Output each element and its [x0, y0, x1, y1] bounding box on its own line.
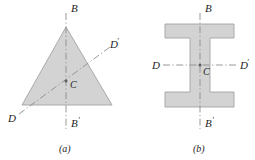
triangle-centroid-dot [65, 80, 68, 83]
triangle-axis-label-D: D [7, 112, 16, 124]
panel-b-group: B B ′ D D ′ C (b) [151, 2, 249, 155]
ibeam-axis-label-D: D [151, 59, 160, 71]
panel-a-caption: (a) [59, 143, 71, 155]
ibeam-centroid-label: C [203, 66, 210, 77]
triangle-axis-label-B: B [71, 2, 78, 14]
triangle-axis-label-B-prime-group: B ′ [71, 116, 80, 129]
triangle-axis-label-Dprime-mark: ′ [117, 37, 119, 46]
triangle-axis-label-Bprime-mark: ′ [78, 116, 80, 125]
figure-canvas: B B ′ D D ′ C (a) B [0, 0, 255, 160]
figure-container: B B ′ D D ′ C (a) B [0, 0, 255, 160]
triangle-axis-label-Bprime: B [71, 117, 78, 129]
triangle-axis-label-D-prime-group: D ′ [109, 37, 119, 50]
triangle-centroid-label: C [70, 79, 77, 90]
ibeam-axis-label-Bprime-mark: ′ [212, 116, 214, 125]
ibeam-axis-label-Bprime: B [205, 117, 212, 129]
ibeam-axis-label-Dprime-mark: ′ [247, 58, 249, 67]
triangle-shape [22, 27, 112, 105]
ibeam-centroid-dot [199, 64, 202, 67]
panel-a-group: B B ′ D D ′ C (a) [7, 2, 119, 155]
ibeam-axis-label-D-prime-group: D ′ [239, 58, 249, 71]
ibeam-axis-label-B-prime-group: B ′ [205, 116, 214, 129]
ibeam-axis-label-B: B [205, 2, 212, 14]
panel-b-caption: (b) [193, 143, 205, 155]
